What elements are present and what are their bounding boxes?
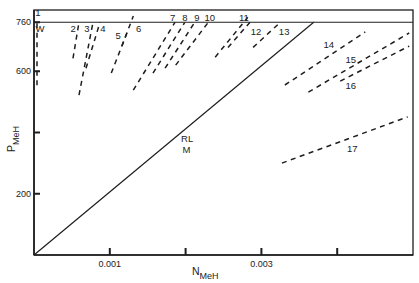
y-tick-label: 760 xyxy=(16,17,31,27)
annotation-label: RL xyxy=(181,133,193,144)
chart: 0.0010.003200600760123456789101112131415… xyxy=(0,0,419,283)
y-axis-label: PMeH xyxy=(5,126,21,152)
x-tick-label: 0.003 xyxy=(250,259,273,269)
series-label: 16 xyxy=(346,80,357,91)
x-axis-label-main: N xyxy=(192,265,200,277)
y-axis-label-subscript: MeH xyxy=(11,126,21,145)
series-line-rl-m xyxy=(34,22,314,255)
series-label: 12 xyxy=(251,26,262,37)
x-axis-label: NMeH xyxy=(192,265,219,281)
series-line-12 xyxy=(228,22,250,47)
y-axis-label-main: P xyxy=(5,145,17,152)
series-label: 5 xyxy=(115,30,120,41)
series-line-11 xyxy=(215,17,248,57)
y-tick-label: 600 xyxy=(16,66,31,76)
series-label: 7 xyxy=(170,12,175,23)
series-label: 11 xyxy=(239,12,249,23)
plot-area: 0.0010.003200600760123456789101112131415… xyxy=(16,7,413,269)
series-label: 6 xyxy=(136,23,141,34)
series-label: 13 xyxy=(279,26,290,37)
series-label: 9 xyxy=(194,12,199,23)
series-line-8 xyxy=(153,22,185,73)
series-line-17 xyxy=(282,117,408,163)
series-label: 14 xyxy=(324,39,335,50)
series-label: 4 xyxy=(100,23,105,34)
annotation-label: W xyxy=(36,23,45,34)
series-label: 3 xyxy=(84,23,89,34)
x-tick-label: 0.001 xyxy=(99,259,122,269)
y-tick-label: 200 xyxy=(16,189,31,199)
series-label: 10 xyxy=(205,12,216,23)
series-label: 2 xyxy=(70,23,75,34)
x-axis-label-subscript: MeH xyxy=(200,271,219,281)
series-label: 15 xyxy=(346,54,357,65)
series-label: 1 xyxy=(35,7,40,18)
series-line-6 xyxy=(122,16,133,46)
series-label: 8 xyxy=(182,12,187,23)
series-label: 17 xyxy=(347,143,358,154)
annotation-label: M xyxy=(182,144,190,155)
